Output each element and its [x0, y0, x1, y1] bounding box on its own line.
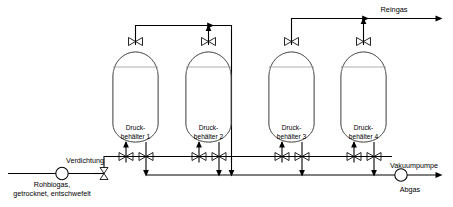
header-arrow-right-pair [362, 16, 369, 22]
vessel-1-label-line1: Druck- [126, 124, 145, 131]
vacuum-pump-symbol [395, 169, 407, 181]
pressure-vessel-1: Druck- behälter 1 [113, 52, 158, 142]
process-flow-diagram: Reingas Druck- behälter 1 [0, 0, 453, 207]
vessel-4-label-line1: Druck- [354, 124, 373, 131]
riser-pipe-vessel-1 [136, 26, 209, 46]
pressure-vessel-4: Druck- behälter 4 [341, 52, 386, 142]
abgas-arrowhead [436, 172, 443, 178]
label-vakuumpumpe: Vakuumpumpe [390, 161, 438, 170]
vessel-4-label-line2: behälter 4 [349, 133, 379, 140]
label-verdichtung: Verdichtung [66, 156, 104, 165]
vessel-3-label-line1: Druck- [282, 124, 301, 131]
label-reingas: Reingas [380, 5, 407, 14]
riser-pipe-vessel-3 [292, 19, 364, 46]
compressor-symbol [56, 167, 68, 179]
reingas-arrowhead [436, 15, 443, 21]
feed-arrow-vessel-2 [196, 141, 202, 148]
pressure-vessel-2: Druck- behälter 2 [186, 52, 231, 142]
feed-arrow-vessel-1 [123, 141, 129, 148]
header-arrow-left-pair [207, 23, 214, 29]
label-abgas: Abgas [400, 185, 421, 194]
feed-arrow-vessel-4 [351, 141, 357, 148]
bottom-risers [123, 141, 374, 175]
label-rohbiogas-line1: Rohbiogas, [34, 180, 70, 189]
feed-arrow-vessel-3 [279, 141, 285, 148]
label-rohbiogas-line2: getrocknet, entschwefelt [13, 189, 91, 198]
pfd-canvas: Reingas Druck- behälter 1 [0, 0, 453, 207]
vessel-2-label-line1: Druck- [199, 124, 218, 131]
vessel-3-label-line2: behälter 3 [277, 133, 307, 140]
vessel-1-label-line2: behälter 1 [121, 133, 151, 140]
pressure-vessel-3: Druck- behälter 3 [269, 52, 314, 142]
vessel-2-label-line2: behälter 2 [194, 133, 224, 140]
